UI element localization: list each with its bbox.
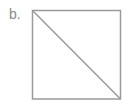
diagonal-line [33, 11, 121, 100]
square-diagram [0, 0, 125, 104]
